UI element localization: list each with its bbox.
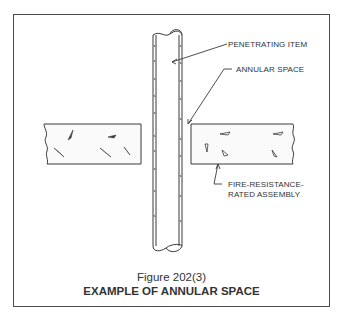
label-assembly-line1: FIRE-RESISTANCE- — [228, 180, 304, 190]
label-annular-space: ANNULAR SPACE — [236, 65, 304, 75]
figure-title: EXAMPLE OF ANNULAR SPACE — [13, 285, 330, 297]
label-penetrating-item: PENETRATING ITEM — [228, 40, 307, 50]
left-wall-section — [44, 124, 141, 164]
figure-number: Figure 202(3) — [13, 271, 330, 283]
right-wall-section — [191, 124, 294, 164]
label-assembly-line2: RATED ASSEMBLY — [228, 190, 300, 200]
penetrating-pipe — [153, 30, 182, 252]
